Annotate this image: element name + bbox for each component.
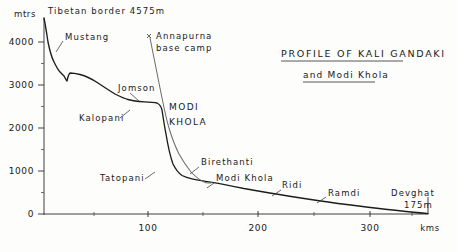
y-axis-unit-label: mtrs — [14, 9, 36, 19]
label-annapurna-base-camp-line1: Annapurna — [156, 31, 212, 41]
leader-birethanti — [190, 167, 199, 174]
y-tick-label-3000: 3000 — [9, 80, 34, 90]
label-modi-khola-branch-line2: KHOLA — [169, 117, 207, 127]
annapurna-base-camp-marker-icon — [147, 34, 151, 38]
chart-title-block: PROFILE OF KALI GANDAKI and Modi Khola — [281, 48, 446, 82]
label-jomson: Jomson — [117, 83, 156, 93]
chart-subtitle: and Modi Khola — [303, 70, 389, 80]
x-tick-label-300: 300 — [361, 223, 380, 233]
leader-modi-khola-confluence — [207, 183, 214, 188]
label-modi-khola-branch-line1: MODI — [169, 102, 199, 112]
label-devghat-elevation: 175m — [404, 200, 433, 210]
label-ramdi: Ramdi — [328, 188, 360, 198]
y-tick-label-0: 0 — [28, 209, 34, 219]
label-ridi: Ridi — [282, 180, 302, 190]
y-tick-label-2000: 2000 — [9, 123, 34, 133]
label-annapurna-base-camp-line2: base camp — [156, 43, 212, 53]
leader-mustang — [56, 41, 63, 52]
label-tatopani: Tatopani — [99, 173, 145, 183]
label-kalopani: Kalopani — [79, 113, 124, 123]
x-axis-unit-label: kms — [420, 223, 439, 233]
elevation-profile-chart: mtrs 4000 3000 2000 1000 0 100 200 300 k… — [0, 0, 457, 252]
x-tick-label-100: 100 — [139, 223, 158, 233]
leader-tatopani — [145, 172, 155, 179]
chart-title: PROFILE OF KALI GANDAKI — [281, 48, 446, 59]
label-mustang: Mustang — [65, 32, 109, 42]
y-tick-label-4000: 4000 — [9, 37, 34, 47]
label-modi-khola-confluence: Modi Khola — [216, 173, 274, 183]
label-birethanti: Birethanti — [201, 157, 254, 167]
label-devghat: Devghat — [391, 188, 435, 198]
x-tick-label-200: 200 — [249, 223, 268, 233]
chart-canvas: mtrs 4000 3000 2000 1000 0 100 200 300 k… — [0, 0, 457, 252]
y-axis — [38, 18, 44, 215]
y-tick-label-1000: 1000 — [9, 166, 34, 176]
label-tibetan-border: Tibetan border 4575m — [47, 6, 165, 16]
